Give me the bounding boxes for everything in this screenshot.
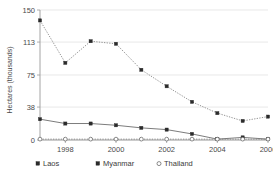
series-line-myanmar bbox=[40, 20, 268, 121]
legend-group: LaosMyanmarThailand bbox=[36, 159, 193, 168]
x-tick-label: 1998 bbox=[57, 145, 74, 154]
data-point-marker-thailand bbox=[165, 137, 169, 141]
data-point-marker-thailand bbox=[241, 137, 245, 141]
data-point-marker-thailand bbox=[89, 137, 93, 141]
data-point-marker-thailand bbox=[114, 137, 118, 141]
data-point-marker-laos bbox=[114, 124, 117, 127]
series-line-laos bbox=[40, 119, 268, 139]
data-point-marker-myanmar bbox=[89, 40, 92, 43]
data-point-marker-myanmar bbox=[190, 100, 193, 103]
legend-label-thailand: Thailand bbox=[164, 159, 193, 168]
data-point-marker-myanmar bbox=[266, 115, 269, 118]
x-tick-labels-group: 19982000200220042006 bbox=[57, 145, 273, 154]
data-series-group bbox=[38, 19, 270, 141]
y-tick-label: 38 bbox=[27, 103, 35, 112]
data-point-marker-myanmar bbox=[241, 119, 244, 122]
data-point-marker-thailand bbox=[190, 137, 194, 141]
legend-label-laos: Laos bbox=[43, 159, 60, 168]
data-point-marker-thailand bbox=[38, 137, 42, 141]
y-axis-title: Hectares (thousands) bbox=[6, 47, 14, 114]
data-point-marker-myanmar bbox=[114, 42, 117, 45]
data-point-marker-laos bbox=[38, 118, 41, 121]
data-point-marker-thailand bbox=[63, 137, 67, 141]
data-point-marker-laos bbox=[140, 126, 143, 129]
data-point-marker-myanmar bbox=[165, 85, 168, 88]
y-axis-title-group: Hectares (thousands) bbox=[6, 47, 14, 114]
data-point-marker-thailand bbox=[215, 137, 219, 141]
x-tick-label: 2000 bbox=[108, 145, 125, 154]
y-tick-label: 75 bbox=[27, 71, 35, 80]
data-point-marker-thailand bbox=[139, 137, 143, 141]
x-tick-label: 2002 bbox=[158, 145, 175, 154]
gridlines-group bbox=[40, 10, 268, 140]
y-tick-label: 150 bbox=[22, 6, 35, 15]
data-point-marker-myanmar bbox=[64, 61, 67, 64]
y-tick-labels-group: 03875113150 bbox=[22, 6, 35, 145]
data-point-marker-laos bbox=[89, 122, 92, 125]
data-point-marker-laos bbox=[64, 122, 67, 125]
data-point-marker-laos bbox=[165, 128, 168, 131]
opium-cultivation-line-chart: 03875113150 19982000200220042006 Hectare… bbox=[0, 0, 273, 176]
legend-marker-thailand bbox=[157, 162, 161, 166]
axes-group bbox=[37, 10, 268, 143]
chart-svg: 03875113150 19982000200220042006 Hectare… bbox=[0, 0, 273, 176]
data-point-marker-laos bbox=[190, 132, 193, 135]
legend-marker-laos bbox=[36, 162, 40, 166]
data-point-marker-thailand bbox=[266, 137, 270, 141]
y-tick-label: 0 bbox=[31, 136, 35, 145]
y-tick-label: 113 bbox=[23, 38, 35, 47]
legend-label-myanmar: Myanmar bbox=[103, 159, 135, 168]
legend-marker-myanmar bbox=[96, 162, 100, 166]
data-point-marker-myanmar bbox=[140, 68, 143, 71]
x-tick-label: 2006 bbox=[260, 145, 273, 154]
data-point-marker-myanmar bbox=[216, 112, 219, 115]
data-point-marker-myanmar bbox=[38, 19, 41, 22]
x-tick-label: 2004 bbox=[209, 145, 226, 154]
